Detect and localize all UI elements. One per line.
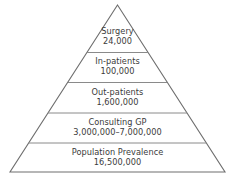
- tier-label-surgery: Surgery: [0, 26, 235, 36]
- tier-label-inpatients: In-patients: [0, 56, 235, 66]
- tier-value-population-prevalence: 16,500,000: [0, 157, 235, 167]
- pyramid-tier-inpatients: In-patients 100,000: [0, 56, 235, 76]
- pyramid-tier-consulting-gp: Consulting GP 3,000,000–7,000,000: [0, 117, 235, 137]
- tier-label-outpatients: Out-patients: [0, 87, 235, 97]
- tier-value-consulting-gp: 3,000,000–7,000,000: [0, 127, 235, 137]
- tier-label-consulting-gp: Consulting GP: [0, 117, 235, 127]
- pyramid-tier-outpatients: Out-patients 1,600,000: [0, 87, 235, 107]
- tier-value-surgery: 24,000: [0, 36, 235, 46]
- tier-value-inpatients: 100,000: [0, 66, 235, 76]
- tier-label-population-prevalence: Population Prevalence: [0, 147, 235, 157]
- pyramid-tier-surgery: Surgery 24,000: [0, 26, 235, 46]
- pyramid-tier-population-prevalence: Population Prevalence 16,500,000: [0, 147, 235, 167]
- tier-value-outpatients: 1,600,000: [0, 97, 235, 107]
- pyramid-diagram: Surgery 24,000 In-patients 100,000 Out-p…: [0, 0, 235, 176]
